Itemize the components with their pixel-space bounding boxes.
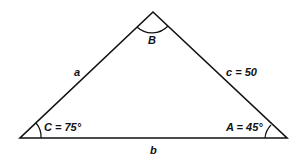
angle-label-c-text: C = 75° bbox=[44, 121, 82, 133]
angle-arc-a bbox=[265, 125, 271, 138]
angle-arc-b bbox=[137, 26, 168, 33]
side-label-a: a bbox=[74, 66, 80, 78]
angle-label-c: C = 75° bbox=[44, 121, 82, 133]
side-label-c-text: c = 50 bbox=[226, 66, 258, 78]
angle-arc-c bbox=[36, 123, 41, 138]
angle-label-a-text: A = 45° bbox=[225, 121, 263, 133]
angle-label-b: B bbox=[148, 34, 156, 46]
angle-label-a: A = 45° bbox=[225, 121, 263, 133]
side-label-b: b bbox=[150, 144, 157, 156]
side-label-c: c = 50 bbox=[226, 66, 258, 78]
triangle-diagram: B C = 75° A = 45° a b c = 50 bbox=[0, 0, 301, 162]
